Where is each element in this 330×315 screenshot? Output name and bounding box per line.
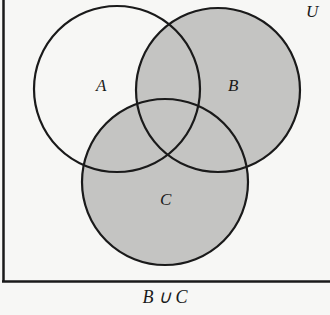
venn-svg: A B C U [0,0,330,315]
set-a-label: A [95,76,107,95]
set-c-label: C [160,190,172,209]
caption: B ∪ C [0,286,330,308]
set-b-label: B [228,76,239,95]
universe-label: U [306,2,320,21]
venn-diagram: A B C U B ∪ C [0,0,330,315]
